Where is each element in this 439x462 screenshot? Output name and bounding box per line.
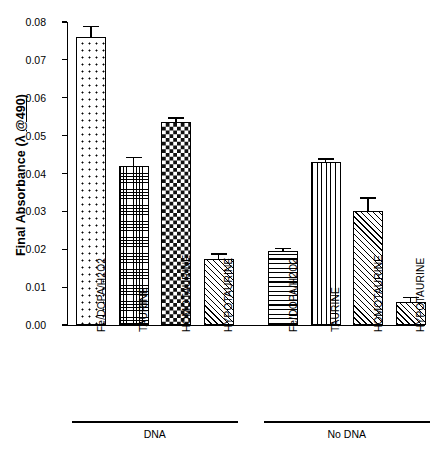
y-axis-tick — [62, 211, 67, 212]
y-axis-tick — [62, 59, 67, 60]
error-bar-cap — [211, 253, 227, 254]
y-axis-tick-label: 0.04 — [0, 168, 46, 180]
error-bar-stem — [90, 26, 91, 37]
y-axis-tick-label: 0.03 — [0, 205, 46, 217]
x-axis-category-label: TAURINE — [330, 287, 341, 332]
x-axis-category-label: Fe/DOPA/H2O2 — [96, 258, 107, 332]
x-axis-category-label: Fe/DOPA/H2O2 — [288, 258, 299, 332]
y-axis-tick — [62, 249, 67, 250]
error-bar-cap — [83, 26, 99, 27]
y-axis-line — [67, 22, 68, 325]
y-axis-tick-label: 0.06 — [0, 92, 46, 104]
error-bar-cap — [126, 157, 142, 158]
x-axis-category-label: HYPOTAURINE — [415, 258, 426, 332]
y-axis-tick — [62, 173, 67, 174]
group-bracket-line — [264, 421, 430, 423]
error-bar-stem — [367, 197, 368, 211]
y-axis-tick-label: 0.05 — [0, 130, 46, 142]
error-bar-cap — [275, 248, 291, 249]
x-axis-category-label: HYPOTAURINE — [223, 258, 234, 332]
x-axis-category-label: HOMOTAURINE — [373, 255, 384, 332]
group-bracket-line — [72, 421, 238, 423]
error-bar-cap — [318, 158, 334, 159]
y-axis-tick-label: 0.08 — [0, 16, 46, 28]
y-axis-tick — [62, 287, 67, 288]
y-axis-tick — [62, 21, 67, 22]
plot-area: 0.080.070.060.050.040.030.020.010.00 — [67, 22, 425, 325]
y-axis-tick — [62, 324, 67, 325]
x-axis-line — [67, 325, 425, 326]
error-bar-stem — [133, 157, 134, 166]
error-bar-cap — [360, 197, 376, 198]
error-bar-cap — [168, 117, 184, 118]
group-label: No DNA — [264, 428, 430, 440]
x-axis-category-label: TAURINE — [138, 287, 149, 332]
y-axis-tick — [62, 97, 67, 98]
y-axis-tick-label: 0.00 — [0, 319, 46, 331]
y-axis-title-prefix: Final Absorbance (λ — [14, 132, 28, 256]
y-axis-tick-label: 0.07 — [0, 54, 46, 66]
y-axis-tick-label: 0.02 — [0, 243, 46, 255]
x-axis-category-label: HOMOTAURINE — [181, 255, 192, 332]
y-axis-tick-label: 0.01 — [0, 281, 46, 293]
group-label: DNA — [72, 428, 238, 440]
y-axis-tick — [62, 135, 67, 136]
bar-chart: Final Absorbance (λ @490) 0.080.070.060.… — [0, 0, 439, 462]
